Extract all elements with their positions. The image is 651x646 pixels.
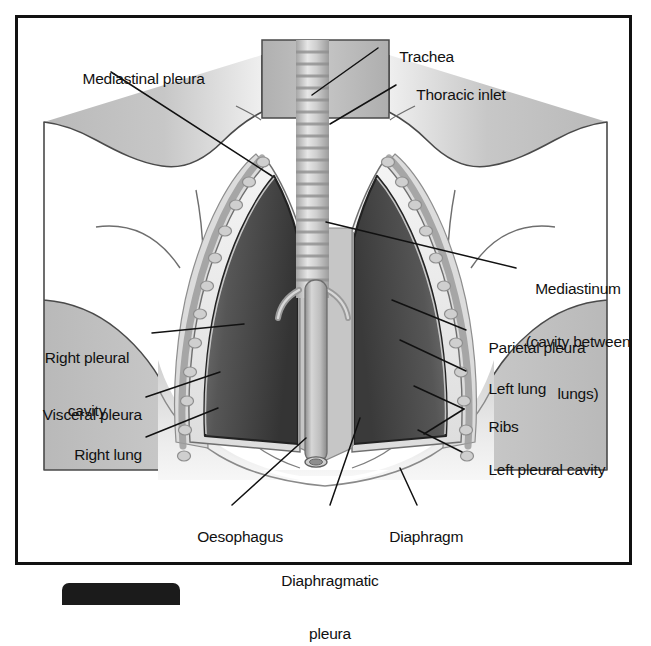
page-tab-marker [62, 583, 180, 605]
label-right-pleural-cavity-line1: Right pleural [28, 349, 146, 367]
label-parietal-pleura-text: Parietal pleura [488, 339, 585, 356]
label-left-lung-text: Left lung [488, 380, 546, 397]
label-mediastinum-line1: Mediastinum [518, 280, 638, 298]
label-left-pleural-cavity: Left pleural cavity [472, 443, 605, 496]
label-visceral-pleura-text: Visceral pleura [43, 406, 142, 423]
label-thoracic-inlet: Thoracic inlet [400, 68, 506, 121]
label-diaphragmatic-pleura-line1: Diaphragmatic [264, 572, 396, 590]
label-left-pleural-cavity-text: Left pleural cavity [488, 461, 605, 478]
label-trachea-text: Trachea [399, 48, 454, 65]
label-mediastinal-pleura-text: Mediastinal pleura [82, 70, 204, 87]
label-diaphragm-text: Diaphragm [389, 528, 463, 545]
label-right-lung: Right lung [32, 428, 142, 481]
label-mediastinal-pleura: Mediastinal pleura [66, 52, 205, 105]
label-right-lung-text: Right lung [74, 446, 142, 463]
label-diaphragmatic-pleura-line2: pleura [264, 625, 396, 643]
oesophagus [305, 280, 327, 467]
label-diaphragm: Diaphragm [366, 510, 470, 563]
label-ribs-text: Ribs [488, 418, 518, 435]
label-thoracic-inlet-text: Thoracic inlet [416, 86, 505, 103]
